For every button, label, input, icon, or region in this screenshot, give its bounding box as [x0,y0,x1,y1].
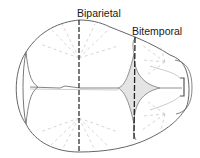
skull-outline [16,20,189,152]
skull-diagram [0,0,200,158]
anterior-fontanelle [118,54,160,124]
sagittal-suture [30,86,118,88]
bitemporal-label: Bitemporal [132,26,182,37]
posterior-fontanelle [26,52,38,124]
lambdoid-suture [23,52,26,124]
biparietal-label: Biparietal [77,8,121,19]
face-inner [180,78,184,96]
